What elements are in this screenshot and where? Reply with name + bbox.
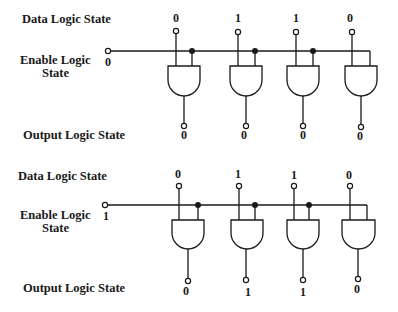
and-gate-1: 0 0 — [172, 167, 204, 298]
and-gate-body — [172, 220, 204, 249]
and-gate-body — [287, 66, 319, 96]
junction-dot-2 — [252, 48, 258, 54]
data-input-terminal-2 — [236, 183, 241, 188]
logic-diagram: Data Logic State Enable Logic State 0 Ou… — [0, 0, 398, 312]
output-logic-state-label: Output Logic State — [23, 128, 126, 142]
junction-dot-2 — [252, 202, 258, 208]
junction-dot-3 — [310, 48, 316, 54]
data-logic-state-label: Data Logic State — [22, 12, 111, 26]
and-gate-body — [342, 220, 375, 249]
data-logic-state-label: Data Logic State — [18, 169, 107, 183]
output-value-2: 1 — [245, 285, 251, 299]
data-input-terminal-4 — [347, 183, 352, 188]
junction-dot-3 — [306, 202, 312, 208]
output-value-2: 0 — [241, 128, 247, 142]
data-value-1: 0 — [175, 167, 181, 181]
output-terminal-3 — [300, 277, 305, 282]
output-value-3: 1 — [300, 285, 306, 299]
enable-input-terminal — [105, 48, 110, 53]
output-value-1: 0 — [183, 284, 189, 298]
enable-logic-label: Enable Logic — [20, 53, 91, 67]
and-gate-4: 0 0 — [342, 168, 375, 296]
data-value-4: 0 — [347, 11, 353, 25]
enable-state-label: State — [42, 221, 70, 235]
enable-input-terminal — [102, 202, 107, 207]
data-value-1: 0 — [173, 11, 179, 25]
output-logic-state-label: Output Logic State — [23, 281, 126, 295]
enable-value: 1 — [103, 209, 109, 223]
data-value-3: 1 — [291, 168, 297, 182]
and-gate-body — [345, 66, 377, 96]
output-terminal-1 — [185, 278, 190, 283]
output-value-3: 0 — [300, 128, 306, 142]
enable-value: 0 — [105, 55, 111, 69]
and-gate-body — [231, 220, 263, 249]
circuit-top: Data Logic State Enable Logic State 0 Ou… — [20, 11, 377, 143]
data-input-terminal-1 — [176, 183, 181, 188]
data-input-terminal-2 — [235, 29, 240, 34]
junction-dot-1 — [189, 48, 195, 54]
data-value-4: 0 — [346, 168, 352, 182]
output-value-4: 0 — [354, 282, 360, 296]
data-value-3: 1 — [293, 11, 299, 25]
data-input-terminal-3 — [291, 183, 296, 188]
output-value-1: 0 — [181, 128, 187, 142]
and-gate-3: 1 1 — [287, 168, 319, 299]
data-value-2: 1 — [235, 167, 241, 181]
output-terminal-4 — [355, 276, 360, 281]
and-gate-body — [230, 66, 262, 96]
data-input-terminal-4 — [349, 29, 354, 34]
data-input-terminal-1 — [173, 28, 178, 33]
and-gate-2: 1 1 — [231, 167, 263, 299]
junction-dot-1 — [195, 202, 201, 208]
and-gate-1: 0 0 — [168, 11, 200, 142]
enable-state-label: State — [42, 66, 70, 80]
and-gate-body — [287, 220, 319, 249]
output-value-4: 0 — [357, 129, 363, 143]
data-input-terminal-3 — [293, 29, 298, 34]
data-value-2: 1 — [235, 11, 241, 25]
and-gate-4: 0 0 — [345, 11, 377, 143]
circuit-bottom: Data Logic State Enable Logic State 1 Ou… — [18, 167, 375, 299]
output-terminal-2 — [243, 277, 248, 282]
and-gate-3: 1 0 — [287, 11, 319, 142]
enable-logic-label: Enable Logic — [20, 208, 91, 222]
and-gate-body — [168, 66, 200, 96]
and-gate-2: 1 0 — [230, 11, 262, 142]
